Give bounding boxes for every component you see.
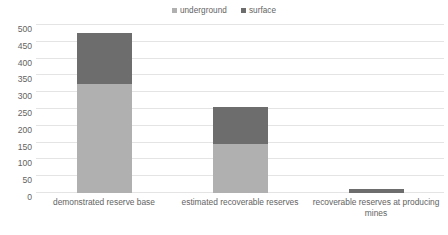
- bar-2[interactable]: [213, 107, 268, 193]
- bar-segment-surface[interactable]: [77, 33, 132, 83]
- bar-segment-surface[interactable]: [349, 189, 404, 193]
- gridline: [36, 24, 444, 25]
- bar-segment-surface[interactable]: [213, 107, 268, 144]
- x-axis-category-label: estimated recoverable reserves: [176, 197, 304, 208]
- chart-legend: underground surface: [0, 6, 448, 15]
- legend-swatch-underground-icon: [172, 8, 177, 13]
- bar-segment-underground[interactable]: [77, 84, 132, 193]
- bar-1[interactable]: [77, 33, 132, 193]
- legend-item-surface[interactable]: surface: [241, 6, 276, 15]
- legend-label-surface: surface: [249, 6, 276, 15]
- bar-segment-underground[interactable]: [213, 144, 268, 193]
- legend-swatch-surface-icon: [241, 8, 246, 13]
- bar-chart: underground surface 05010015020025030035…: [0, 0, 448, 235]
- x-axis: demonstrated reserve baseestimated recov…: [36, 197, 444, 231]
- legend-label-underground: underground: [180, 6, 227, 15]
- x-axis-category-label: demonstrated reserve base: [40, 197, 168, 208]
- plot-area: [36, 25, 444, 193]
- bar-3[interactable]: [349, 189, 404, 193]
- x-axis-category-label: recoverable reserves at producing mines: [312, 197, 440, 219]
- y-axis: 050100150200250300350400450500: [0, 25, 32, 193]
- legend-item-underground[interactable]: underground: [172, 6, 227, 15]
